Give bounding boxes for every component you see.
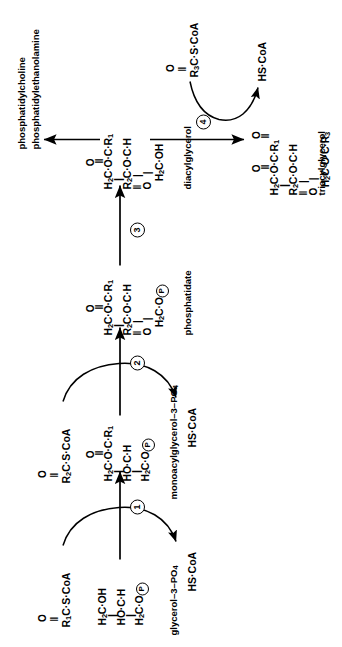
phosphate-circle-icon: P [156, 284, 169, 297]
diacyl-carbonyl-o-bottom: O | [143, 134, 153, 189]
step-number-3: 3 [130, 222, 145, 237]
phosphate-circle-icon: P [136, 582, 149, 595]
pathway-arrows-layer [0, 0, 342, 647]
reagent-hs-coa-4: HS·CoA [256, 41, 268, 81]
phosphatidate-line-3: H2C·OP [153, 280, 166, 335]
step-number-2: 2 [130, 355, 145, 370]
acylcoa2-label: R2C·S·CoA [60, 428, 75, 483]
caption-phosphatidate: phosphatidate [182, 270, 193, 335]
acylcoa2-carbonyl-o: O [38, 428, 48, 483]
product-phosphatidylethanolamine: phosphatidylethanolamine [30, 29, 41, 149]
monoacyl-line-3: H2C·OP [139, 426, 152, 481]
reagent-acyl-coa-1: O ‖ R1C·S·CoA [38, 572, 75, 627]
figure-rotation-wrapper: 1 2 3 4 H2C·OH | HO·C·H | H2C·OP glycero… [0, 0, 342, 647]
product-phosphatidylcholine: phosphatidylcholine [16, 57, 27, 149]
reagent-acyl-coa-2: O ‖ R2C·S·CoA [38, 428, 75, 483]
reagent-hs-coa-2: HS·CoA [186, 407, 198, 447]
glycerol-line-3: H2C·OP [133, 582, 146, 625]
phosphatidate-carbonyl-o-bottom: O | [143, 280, 153, 335]
arc-step-1 [63, 507, 176, 545]
acylcoa1-label: R1C·S·CoA [60, 572, 75, 627]
acylcoa1-carbonyl-bond: ‖ [48, 616, 60, 627]
acylcoa3-label: R3C·S·CoA [188, 22, 203, 77]
acylcoa1-carbonyl-o: O [38, 572, 48, 627]
caption-monoacylglycerol-3-phosphate: monoacylglycerol–3–PO4 [168, 384, 180, 499]
structure-phosphatidate: O ‖ H2C·O·C·R1 | R2C·O·C·H ‖ | O | H2C·O… [86, 280, 166, 335]
arc-step-2 [63, 363, 176, 401]
reagent-acyl-coa-3: O ‖ R3C·S·CoA [166, 22, 203, 77]
phosphate-circle-icon: P [142, 438, 155, 451]
diacyl-line-3: H2C·OH [153, 134, 166, 189]
step-number-1: 1 [130, 499, 145, 514]
acylcoa3-carbonyl-bond: ‖ [176, 66, 188, 77]
caption-triacylglycerol: triacylglycerol [316, 131, 327, 195]
structure-glycerol-3-phosphate: H2C·OH | HO·C·H | H2C·OP [96, 582, 146, 625]
structure-diacylglycerol: O ‖ H2C·O·C·R1 | R2C·O·C·H ‖ | O | H2C·O… [86, 134, 166, 189]
caption-diacylglycerol: diacylglycerol [182, 126, 193, 189]
pathway-diagram: 1 2 3 4 H2C·OH | HO·C·H | H2C·OP glycero… [0, 0, 342, 647]
reagent-hs-coa-1: HS·CoA [186, 551, 198, 591]
acylcoa2-carbonyl-bond: ‖ [48, 472, 60, 483]
structure-monoacylglycerol-3-phosphate: O ‖ H2C·O·C·R1 | HO·C·H | H2C·OP [86, 426, 152, 481]
acylcoa3-carbonyl-o: O [166, 22, 176, 77]
caption-glycerol-3-phosphate: glycerol–3–PO4 [168, 565, 180, 635]
step-number-4: 4 [196, 114, 211, 129]
